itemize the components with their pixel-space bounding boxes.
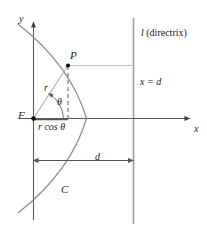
conic-figure: y x F P r θ r cos θ d C x = d l (directr… bbox=[0, 0, 207, 228]
point-p-label: P bbox=[70, 50, 77, 61]
x-axis-label: x bbox=[194, 124, 198, 134]
distance-d-label: d bbox=[95, 152, 100, 162]
focal-radius-segment bbox=[34, 66, 69, 119]
focus-point-marker bbox=[31, 116, 36, 121]
r-cos-theta-label: r cos θ bbox=[38, 122, 65, 132]
radius-label: r bbox=[44, 83, 48, 93]
y-axis-label: y bbox=[19, 14, 23, 24]
directrix-equation-label: x = d bbox=[140, 77, 161, 87]
curve-label: C bbox=[61, 184, 68, 195]
theta-angle-label: θ bbox=[57, 97, 62, 107]
focus-label: F bbox=[18, 110, 25, 121]
point-p-marker bbox=[66, 63, 70, 67]
directrix-name-text: (directrix) bbox=[144, 27, 187, 38]
directrix-label: l (directrix) bbox=[141, 28, 187, 38]
